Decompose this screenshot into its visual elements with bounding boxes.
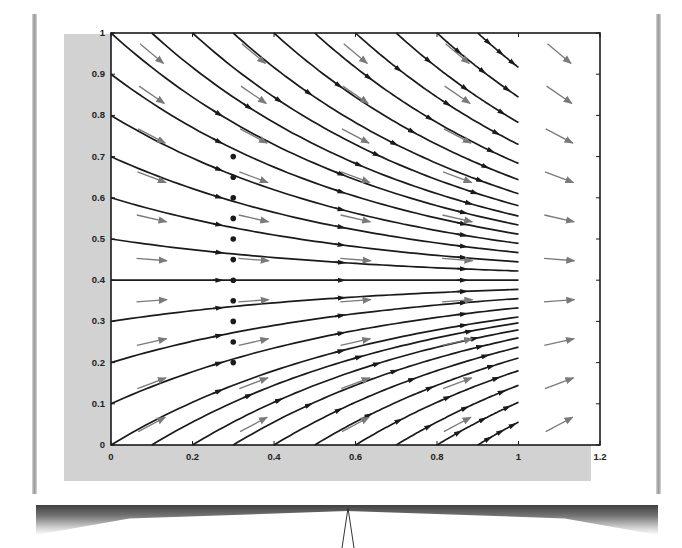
streamline-direction-arrow (500, 392, 502, 393)
streamline-direction-arrow (482, 71, 483, 72)
trajectory-point (230, 277, 236, 283)
x-tick-label: 0.6 (349, 451, 362, 462)
streamline-plot: 00.20.40.60.811.2 00.10.20.30.40.50.60.7… (0, 0, 682, 548)
streamline-direction-arrow (488, 42, 489, 43)
y-tick-label: 0.2 (92, 357, 105, 368)
x-tick-label: 0.2 (186, 451, 199, 462)
streamline-direction-arrow (213, 308, 220, 309)
x-tick-label: 1.2 (593, 451, 606, 462)
y-tick-label: 0.9 (92, 68, 105, 79)
trajectory-point (230, 174, 236, 180)
streamline-direction-arrow (500, 53, 501, 54)
y-tick-label: 0.7 (92, 151, 105, 162)
streamline-direction-arrow (335, 315, 342, 316)
x-tick-label: 0.8 (430, 451, 443, 462)
streamline-direction-arrow (427, 426, 429, 427)
streamline-direction-arrow (457, 325, 464, 326)
streamline-direction-arrow (482, 419, 483, 420)
y-tick-label: 0.1 (92, 398, 106, 409)
x-tick-label: 0.4 (267, 451, 281, 462)
streamline-direction-arrow (335, 244, 342, 245)
trajectory-point (230, 236, 236, 242)
streamline-direction-arrow (494, 378, 497, 379)
streamline-direction-arrow (463, 331, 469, 332)
streamline-direction-arrow (457, 314, 464, 315)
x-tick-label: 0 (108, 451, 113, 462)
y-tick-label: 0.4 (92, 274, 106, 285)
y-tick-label: 1 (100, 27, 106, 38)
streamline-direction-arrow (463, 87, 465, 88)
streamline-direction-arrow (457, 303, 464, 304)
streamline-direction-arrow (445, 397, 448, 398)
x-tick-label: 1 (516, 451, 522, 462)
streamline-direction-arrow (506, 89, 507, 90)
streamline-direction-arrow (463, 408, 465, 409)
trajectory-point (230, 298, 236, 304)
streamline-direction-arrow (488, 366, 491, 367)
streamline-direction-arrow (213, 252, 220, 253)
trajectory-point (230, 154, 236, 160)
trajectory-point (230, 257, 236, 263)
trajectory-point (230, 195, 236, 201)
streamline-direction-arrow (506, 407, 507, 408)
streamline-direction-arrow (482, 356, 486, 357)
y-tick-label: 0.5 (92, 233, 106, 244)
trajectory-point (230, 339, 236, 345)
trajectory-point (230, 216, 236, 222)
streamline-direction-arrow (476, 347, 481, 348)
y-tick-label: 0 (100, 439, 105, 450)
streamline-direction-arrow (457, 51, 458, 52)
y-tick-label: 0.3 (92, 315, 105, 326)
streamline-direction-arrow (500, 112, 502, 113)
streamline-direction-arrow (457, 257, 464, 258)
trajectory-point (230, 319, 236, 325)
y-tick-label: 0.8 (92, 109, 105, 120)
streamline-direction-arrow (457, 246, 464, 247)
streamline-direction-arrow (457, 432, 458, 433)
y-tick-label: 0.6 (92, 192, 105, 203)
streamline-direction-arrow (512, 63, 513, 64)
streamline-direction-arrow (457, 234, 464, 235)
trajectory-point (230, 360, 236, 366)
